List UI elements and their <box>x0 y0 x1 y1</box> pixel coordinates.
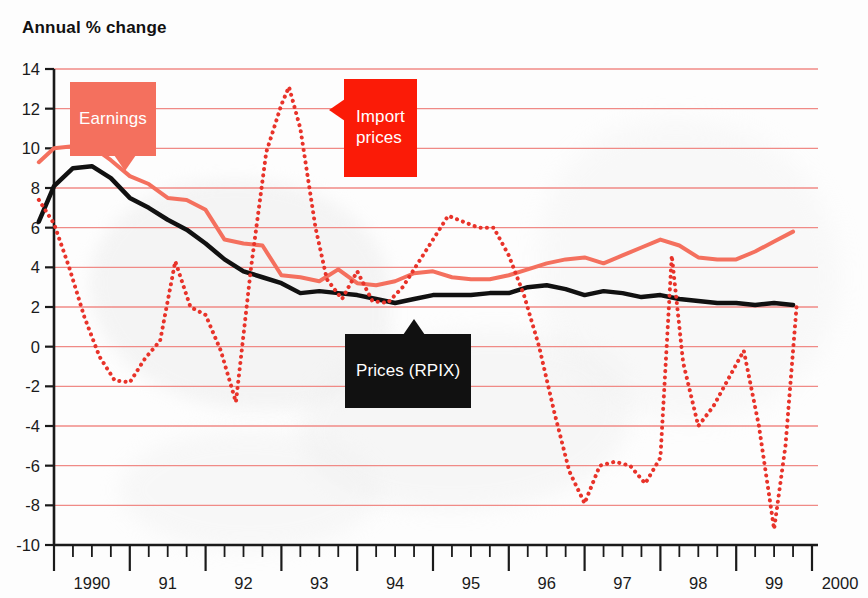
x-axis-tick-label: 93 <box>310 574 328 592</box>
x-axis-tick-label: 95 <box>462 574 480 592</box>
x-axis-tick-label: 2000 <box>822 574 859 592</box>
x-axis-tick-label: 97 <box>613 574 631 592</box>
import-prices-callout: Import prices <box>344 79 417 177</box>
y-axis-tick-label: -10 <box>16 536 40 554</box>
prices-rpix-callout-label: Prices (RPIX) <box>356 361 460 380</box>
y-axis-tick-label: -6 <box>25 457 40 475</box>
y-axis-tick-label: 10 <box>22 139 40 157</box>
x-axis-tick-label: 99 <box>765 574 783 592</box>
x-axis-tick-label: 92 <box>234 574 252 592</box>
y-axis-tick-label: 14 <box>22 60 40 78</box>
callout-tail-icon <box>403 319 425 335</box>
x-axis-tick-label: 96 <box>538 574 556 592</box>
y-axis-tick-label: 0 <box>31 338 40 356</box>
x-axis-tick-label: 98 <box>689 574 707 592</box>
callout-tail-icon <box>114 155 136 171</box>
y-axis-tick-label: 8 <box>31 179 40 197</box>
y-axis-tick-label: 12 <box>22 100 40 118</box>
y-axis-tick-label: -8 <box>25 496 40 514</box>
prices-rpix-callout: Prices (RPIX) <box>345 334 471 408</box>
y-axis-tick-label: 4 <box>31 258 40 276</box>
earnings-callout-label: Earnings <box>79 109 147 128</box>
y-axis-tick-label: -4 <box>25 417 40 435</box>
axis-ticks <box>45 69 812 571</box>
y-axis-tick-labels: 14121086420-2-4-6-8-10 <box>16 60 40 554</box>
x-axis-tick-labels: 19909192939495969798992000 <box>74 574 859 592</box>
chart-container: Annual % change 14121086420-2-4-6-8-10 1… <box>0 0 868 598</box>
y-axis-tick-label: 2 <box>31 298 40 316</box>
x-axis-tick-label: 91 <box>159 574 177 592</box>
y-axis-tick-label: -2 <box>25 377 40 395</box>
gridlines <box>54 69 818 545</box>
import-prices-callout-label: Import prices <box>356 107 405 147</box>
x-axis-tick-label: 1990 <box>74 574 111 592</box>
x-axis-tick-label: 94 <box>386 574 404 592</box>
callout-tail-icon <box>329 99 345 121</box>
earnings-callout: Earnings <box>70 82 156 156</box>
